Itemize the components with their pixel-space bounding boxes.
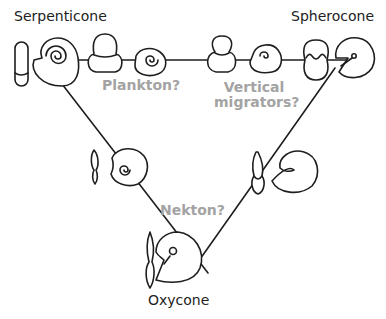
involute-coil-icon [250, 45, 281, 73]
vertical-migrators-line1: Vertical [214, 80, 294, 95]
nekton-label: Nekton? [160, 203, 225, 218]
serpenticone-cross-section-icon [15, 42, 28, 86]
serpenticone-coil-icon [33, 38, 78, 86]
intermediate-left-cross-section-icon [91, 150, 98, 184]
depressed-cross-section-icon [208, 36, 236, 72]
intermediate-left-coil-icon [111, 149, 147, 186]
diagram-graphics [0, 0, 386, 319]
spherocone-label: Spherocone [291, 9, 374, 24]
plankton-shell-icons [88, 34, 166, 76]
serpenticone-label: Serpenticone [14, 9, 107, 24]
oxycone-label: Oxycone [148, 293, 209, 308]
vertical-migrator-shell-icons [208, 36, 282, 73]
intermediate-right-coil-icon [272, 151, 318, 192]
vertical-migrators-label: Vertical migrators? [214, 80, 294, 111]
oxycone-coil-icon [156, 232, 202, 282]
intermediate-left-shell-icon [91, 149, 147, 186]
compressed-cross-section-icon [88, 34, 122, 72]
plankton-label: Plankton? [102, 78, 180, 93]
intermediate-right-cross-section-icon [252, 152, 264, 194]
spherocone-shell-icon [304, 38, 375, 80]
vertical-migrators-line2: migrators? [214, 95, 294, 110]
serpenticone-shell-icon [15, 38, 79, 86]
intermediate-right-shell-icon [252, 151, 318, 194]
ammonoid-morphospace-diagram: Serpenticone Spherocone Oxycone Plankton… [0, 0, 386, 319]
oxycone-shell-icon [146, 232, 201, 288]
spherocone-cross-section-icon [304, 40, 328, 80]
oxycone-cross-section-icon [146, 232, 154, 288]
